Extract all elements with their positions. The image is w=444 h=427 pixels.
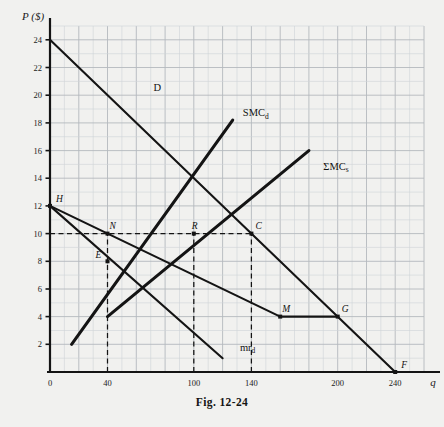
point-marker-H	[48, 204, 52, 208]
y-tick-label: 18	[34, 118, 43, 128]
grid-lines	[50, 26, 424, 372]
y-tick-label: 10	[34, 229, 43, 239]
point-marker-F	[393, 370, 397, 374]
y-tick-label: 8	[38, 256, 42, 266]
x-tick-label: 200	[331, 378, 344, 388]
x-tick-label: 140	[245, 378, 258, 388]
economics-line-chart: 24681012141618202224040100140200240P ($)…	[0, 0, 444, 427]
point-label-N: N	[109, 221, 117, 231]
point-label-C: C	[255, 221, 262, 231]
point-marker-G	[336, 315, 340, 319]
y-tick-label: 6	[38, 284, 42, 294]
y-tick-label: 16	[34, 146, 43, 156]
y-tick-label: 22	[34, 63, 43, 73]
tick-labels: 24681012141618202224040100140200240	[34, 35, 402, 388]
figure-container: 24681012141618202224040100140200240P ($)…	[0, 0, 444, 427]
point-label-H: H	[55, 194, 64, 204]
point-label-R: R	[191, 221, 198, 231]
point-label-G: G	[342, 304, 349, 314]
x-axis-title: q	[430, 376, 436, 388]
x-tick-label: 0	[48, 378, 52, 388]
point-label-F: F	[400, 360, 407, 370]
point-marker-R	[192, 232, 196, 236]
curve-label-SumMC_s: ΣMCs	[323, 161, 348, 175]
point-label-M: M	[281, 304, 291, 314]
y-tick-label: 4	[38, 312, 43, 322]
y-tick-label: 24	[34, 35, 43, 45]
point-label-E: E	[95, 250, 102, 260]
figure-caption: Fig. 12-24	[0, 396, 444, 408]
y-tick-label: 12	[34, 201, 43, 211]
x-tick-label: 40	[103, 378, 112, 388]
y-tick-label: 2	[38, 339, 42, 349]
y-tick-label: 20	[34, 90, 43, 100]
y-axis-title: P ($)	[21, 10, 44, 23]
point-annotations: HNERCMGF	[48, 194, 407, 374]
x-tick-label: 100	[187, 378, 200, 388]
point-marker-M	[278, 315, 282, 319]
y-tick-label: 14	[34, 173, 43, 183]
point-marker-N	[106, 232, 110, 236]
curve-label-D: D	[154, 82, 162, 93]
point-marker-C	[249, 232, 253, 236]
point-marker-E	[106, 259, 110, 263]
curve-label-mr_d: mrd	[240, 342, 256, 356]
x-tick-label: 240	[389, 378, 402, 388]
